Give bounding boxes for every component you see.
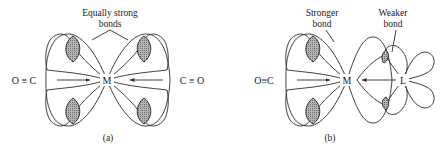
overlap-shaded-top-right (137, 36, 151, 62)
annotation-weaker-line1: Weaker (379, 8, 409, 18)
panel-b: Stronger bond Weaker bond O≡C (254, 8, 434, 144)
panel-a: Equally strong bonds O ≡ C M C ≡ O (a) (12, 8, 205, 144)
metal-atom-label-b: M (343, 75, 352, 86)
overlap-shaded-top-left (66, 36, 80, 62)
annotation-pointer-lines (92, 30, 128, 40)
annotation-stronger-line2: bond (313, 19, 332, 29)
caption-b: (b) (324, 133, 335, 144)
overlap-shaded-bottom-left (66, 98, 80, 124)
annotation-equally-strong-line2: bonds (99, 19, 122, 29)
metal-atom-label: M (103, 75, 112, 86)
overlap-shaded-l-top (382, 50, 389, 63)
overlap-shaded-l-bottom (382, 97, 388, 110)
overlap-shaded-bottom-right (137, 98, 151, 124)
annotation-stronger-line1: Stronger (306, 8, 340, 18)
annotation-stronger-pointer (326, 30, 334, 42)
overlap-shaded-co-top (306, 36, 320, 62)
caption-a: (a) (103, 133, 114, 144)
ligand-co-label: O≡C (254, 75, 274, 86)
orbital-diagram: Equally strong bonds O ≡ C M C ≡ O (a) S… (0, 0, 441, 148)
ligand-right-label: C ≡ O (180, 75, 205, 86)
annotation-weaker-line2: bond (384, 19, 403, 29)
overlap-shaded-co-bottom (306, 98, 320, 124)
annotation-equally-strong-line1: Equally strong (82, 8, 138, 18)
ligand-left-label: O ≡ C (12, 75, 37, 86)
ligand-l-label: L (400, 75, 406, 86)
